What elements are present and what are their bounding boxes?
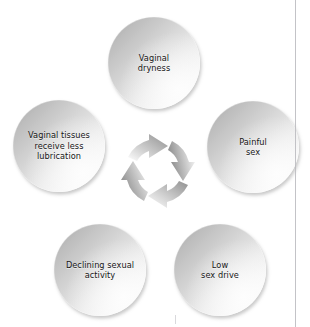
- node-painful-sex: Painful sex: [207, 101, 299, 193]
- page-tick-mark: [175, 315, 176, 324]
- node-low-sex-drive: Low sex drive: [174, 224, 266, 316]
- node-label: Painful sex: [235, 137, 271, 158]
- node-label: Vaginal tissues receive less lubrication: [24, 130, 94, 161]
- node-vaginal-dryness: Vaginal dryness: [108, 17, 200, 109]
- circular-arrows-icon: [110, 123, 206, 219]
- diagram-canvas: Vaginal dryness Painful sex Low sex driv…: [0, 0, 310, 327]
- page-edge-rule: [295, 0, 296, 327]
- node-vaginal-tissues-less-lubrication: Vaginal tissues receive less lubrication: [13, 100, 105, 192]
- node-label: Low sex drive: [197, 260, 243, 281]
- node-label: Vaginal dryness: [134, 53, 175, 74]
- node-label: Declining sexual activity: [62, 260, 138, 281]
- node-declining-sexual-activity: Declining sexual activity: [54, 224, 146, 316]
